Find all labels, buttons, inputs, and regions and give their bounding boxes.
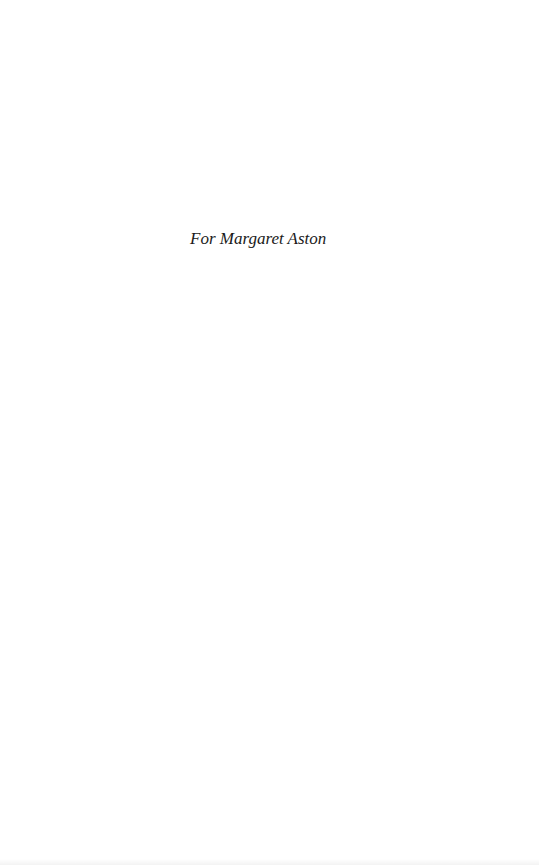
dedication-text: For Margaret Aston [190, 229, 326, 249]
page-edge-shadow [0, 859, 539, 865]
book-page: For Margaret Aston [0, 0, 539, 865]
